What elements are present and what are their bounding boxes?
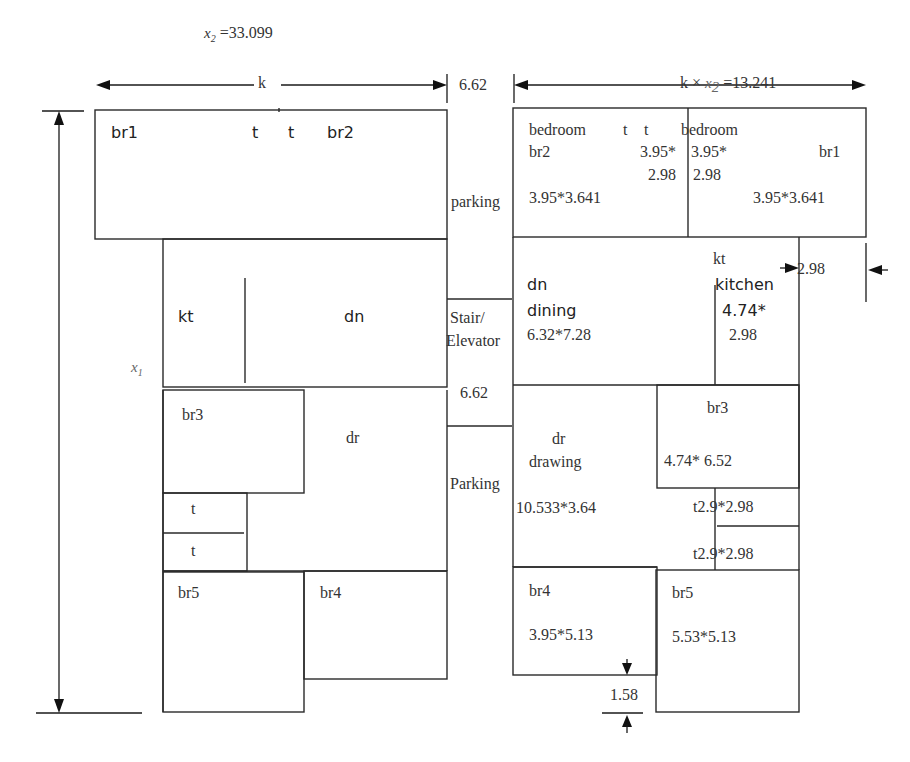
room-label-t2: t <box>288 123 294 142</box>
bedroom-left-size: 3.95*3.641 <box>529 189 601 206</box>
br3-right-size: 4.74* 6.52 <box>664 452 732 469</box>
br4-offset-label: 1.58 <box>610 686 638 703</box>
kitchen-name: kitchen <box>715 275 774 294</box>
room-label-dr: dr <box>346 429 360 446</box>
dining-name: dining <box>527 301 576 320</box>
br3-right-code: br3 <box>707 399 728 416</box>
left-floor-plan: br1 t t br2 kt dn br3 dr t t br5 br4 <box>95 108 447 712</box>
room-label-br3: br3 <box>182 406 203 423</box>
room-kt-dn <box>163 239 447 387</box>
bedroom-right-size: 3.95*3.641 <box>753 189 825 206</box>
kitchen-offset-label: 2.98 <box>797 260 825 277</box>
bedroom-right-name: bedroom <box>681 121 738 138</box>
arrow-left-icon <box>868 265 882 275</box>
room-label-t4: t <box>191 542 196 559</box>
room-label-br4: br4 <box>320 584 341 601</box>
kitchen-size-b: 2.98 <box>729 326 757 343</box>
dimension-k-width: k <box>96 74 447 103</box>
floor-plan-diagram: x2 =33.099 k 6.62 k ×x2 =13.241 x1 <box>0 0 910 762</box>
br5-right-size: 5.53*5.13 <box>672 628 736 645</box>
bedroom-left-code: br2 <box>529 143 550 160</box>
arrow-up-icon <box>54 111 64 125</box>
dimension-kx2-width: k ×x2 =13.241 <box>514 74 866 103</box>
drawing-name: drawing <box>529 453 581 471</box>
dimension-kx2-label: k ×x2 =13.241 <box>680 74 776 95</box>
room-br1-br2 <box>95 110 447 239</box>
bedroom-left-name: bedroom <box>529 121 586 138</box>
toilet-top-size-b: 2.98 <box>648 166 676 183</box>
dimension-kitchen-offset: 2.98 <box>780 243 888 302</box>
parking-bottom-label: Parking <box>450 475 500 493</box>
arrow-down-icon <box>622 663 632 675</box>
toilet-top-size-c: 3.95* <box>691 143 727 160</box>
elevator-label: Elevator <box>446 332 501 349</box>
room-label-br5: br5 <box>178 584 199 601</box>
toilet-a-label: t2.9*2.98 <box>693 498 753 515</box>
drawing-size: 10.533*3.64 <box>516 499 596 516</box>
dining-code: dn <box>527 275 547 294</box>
toilets-left <box>163 493 247 571</box>
center-strip: parking Stair/ Elevator 6.62 Parking <box>446 193 512 493</box>
dining-size: 6.32*7.28 <box>527 326 591 343</box>
room-label-br1: br1 <box>111 123 138 142</box>
kitchen-code: kt <box>713 250 726 267</box>
right-floor-plan: bedroom br2 3.95*3.641 t t 3.95* 2.98 3.… <box>513 108 888 733</box>
gap-width-label: 6.62 <box>459 76 487 93</box>
room-label-t3: t <box>191 500 196 517</box>
room-label-br2: br2 <box>327 123 354 142</box>
arrow-left-icon <box>514 80 528 90</box>
toilet-top-size-d: 2.98 <box>693 166 721 183</box>
drawing-code: dr <box>552 430 566 447</box>
toilet-top-t1: t <box>623 121 628 138</box>
stair-label: Stair/ <box>450 309 485 326</box>
stair-width-label: 6.62 <box>460 384 488 401</box>
toilet-top-size-a: 3.95* <box>640 143 676 160</box>
toilet-b-label: t2.9*2.98 <box>693 545 753 562</box>
dimension-k-label: k <box>258 74 266 91</box>
arrow-down-icon <box>54 699 64 713</box>
arrow-right-icon <box>852 80 866 90</box>
x2-label: x2 =33.099 <box>203 24 273 44</box>
room-label-dn: dn <box>344 307 364 326</box>
bedroom-right-code: br1 <box>819 143 840 160</box>
br4-right-code: br4 <box>529 582 550 599</box>
dimension-x1-height: x1 <box>36 111 143 713</box>
dimension-br4-offset: 1.58 <box>602 659 643 733</box>
kitchen-size-a: 4.74* <box>722 301 766 320</box>
toilet-top-t2: t <box>644 121 649 138</box>
arrow-left-icon <box>96 80 110 90</box>
room-label-t1: t <box>252 123 258 142</box>
br5-right-code: br5 <box>672 584 693 601</box>
arrow-right-icon <box>433 80 447 90</box>
dimension-x1-label: x1 <box>130 359 143 378</box>
br4-right-size: 3.95*5.13 <box>529 626 593 643</box>
parking-top-label: parking <box>451 193 500 211</box>
room-label-kt: kt <box>178 307 194 326</box>
